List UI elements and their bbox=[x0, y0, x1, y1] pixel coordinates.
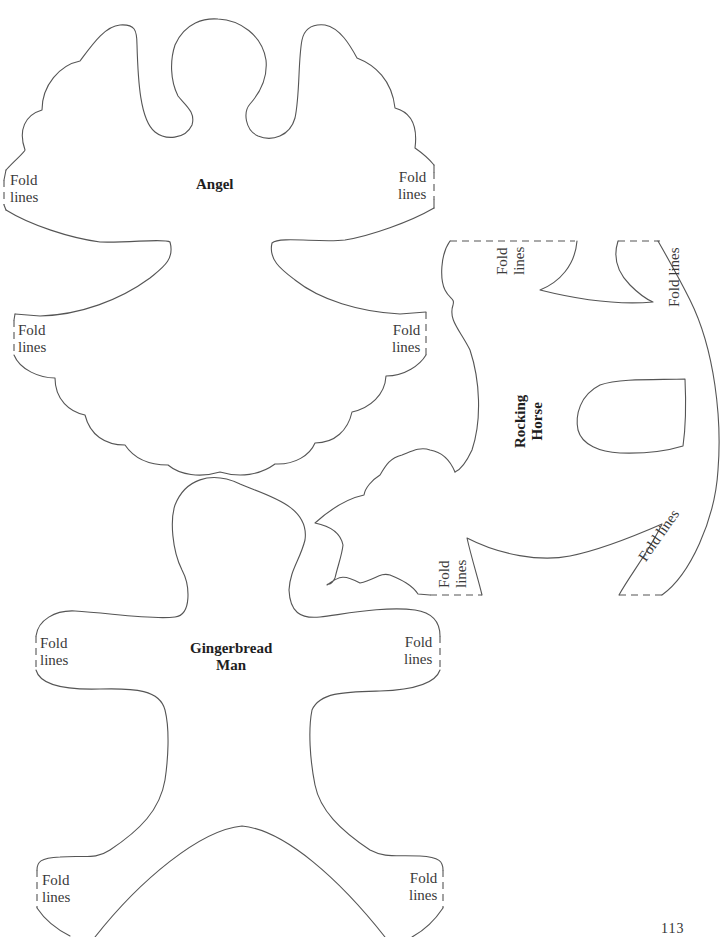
fold-label-line1: Fold lines bbox=[666, 247, 683, 307]
fold-label-line1: Fold bbox=[494, 247, 511, 275]
fold-label-line1: Fold bbox=[42, 872, 70, 889]
fold-label-line2: lines bbox=[18, 339, 46, 356]
rocking-horse-title-line2: Horse bbox=[529, 395, 546, 448]
fold-label-line1: Fold bbox=[18, 322, 46, 339]
rocking-horse-fold-label-top-right: Fold lines bbox=[666, 247, 683, 307]
fold-label-line1: Fold bbox=[409, 870, 437, 887]
angel-fold-label-lower-left: Fold lines bbox=[18, 322, 46, 356]
fold-label-line2: lines bbox=[398, 186, 426, 203]
gingerbread-man-outline bbox=[36, 478, 443, 937]
rocking-horse-fold-label-top-left: Fold lines bbox=[494, 247, 528, 275]
fold-label-line1: Fold bbox=[392, 322, 420, 339]
fold-label-line2: lines bbox=[10, 189, 38, 206]
gingerbread-man-title-line2: Man bbox=[190, 657, 272, 674]
fold-label-line1: Fold bbox=[436, 560, 453, 588]
angel-title-text: Angel bbox=[196, 176, 234, 193]
gingerbread-man-title: Gingerbread Man bbox=[190, 640, 272, 674]
template-page: Angel Fold lines Fold lines Fold lines F… bbox=[0, 0, 724, 937]
angel-fold-label-upper-left: Fold lines bbox=[10, 172, 38, 206]
rocking-horse-title-line1: Rocking bbox=[512, 395, 529, 448]
gingerbread-fold-label-leg-left: Fold lines bbox=[42, 872, 70, 906]
gingerbread-fold-label-leg-right: Fold lines bbox=[409, 870, 437, 904]
fold-label-line1: Fold bbox=[40, 635, 68, 652]
rocking-horse-title: Rocking Horse bbox=[512, 395, 546, 448]
gingerbread-fold-label-arm-left: Fold lines bbox=[40, 635, 68, 669]
page-number: 113 bbox=[661, 921, 684, 937]
fold-label-line2: lines bbox=[40, 652, 68, 669]
angel-fold-label-lower-right: Fold lines bbox=[392, 322, 420, 356]
fold-label-line2: lines bbox=[392, 339, 420, 356]
template-outlines bbox=[0, 0, 724, 937]
fold-label-line2: lines bbox=[511, 247, 528, 275]
fold-label-line2: lines bbox=[453, 560, 470, 588]
fold-label-line1: Fold bbox=[10, 172, 38, 189]
gingerbread-fold-label-arm-right: Fold lines bbox=[404, 634, 432, 668]
angel-outline bbox=[4, 19, 434, 475]
angel-fold-label-upper-right: Fold lines bbox=[398, 169, 426, 203]
rocking-horse-fold-label-bottom-left: Fold lines bbox=[436, 560, 470, 588]
angel-title: Angel bbox=[196, 176, 234, 193]
fold-label-line2: lines bbox=[404, 651, 432, 668]
fold-label-line2: lines bbox=[409, 887, 437, 904]
fold-label-line2: lines bbox=[42, 889, 70, 906]
fold-label-line1: Fold bbox=[398, 169, 426, 186]
fold-label-line1: Fold bbox=[404, 634, 432, 651]
gingerbread-man-title-line1: Gingerbread bbox=[190, 640, 272, 657]
